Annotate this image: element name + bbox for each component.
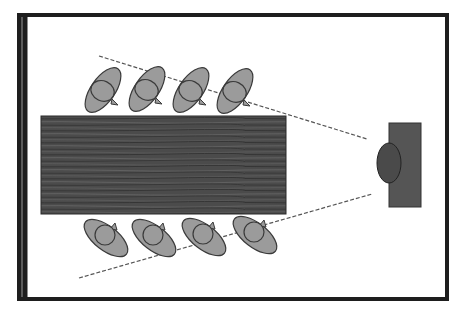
presenter-head xyxy=(377,143,401,183)
attendee-head xyxy=(95,225,115,245)
seating-diagram xyxy=(0,0,461,320)
conference-table xyxy=(41,116,286,214)
attendee-head xyxy=(143,225,163,245)
attendee-head xyxy=(244,222,264,242)
attendee-head xyxy=(193,224,213,244)
diagram-canvas xyxy=(0,0,461,320)
